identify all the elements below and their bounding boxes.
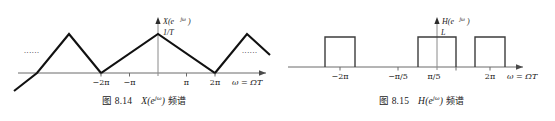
figure-8-15: −2π −π/5 π/5 2π ω = ΩT H(e jω ) L ... 图 xyxy=(288,0,555,121)
y-axis-label-superscript: jω xyxy=(180,16,187,22)
y-axis-label-group: H(e jω ) xyxy=(441,16,470,27)
tick-label-2pi: 2π xyxy=(210,78,220,87)
figure-pair-page: −2π −π π 2π ω = ΩT X(e jω ) 1/T ...... .… xyxy=(0,0,555,121)
figure-8-15-plot: −2π −π/5 π/5 2π ω = ΩT H(e jω ) L ... xyxy=(288,0,555,95)
caption-function-tail: ) xyxy=(162,96,165,106)
passband-rect-minus-2pi xyxy=(325,37,355,67)
figure-8-15-caption: 图 8.15H(ejω) 频谱 xyxy=(288,93,555,107)
caption-label: 图 8.15 xyxy=(379,96,409,106)
caption-function: H(e xyxy=(418,96,433,106)
y-axis-label-base: H(e xyxy=(441,17,454,26)
y-axis-label-tail: ) xyxy=(187,17,191,26)
tick-label-minus-pi: −π xyxy=(124,78,136,87)
ellipsis-left: ...... xyxy=(24,46,40,55)
tick-label-pi-over-5: π/5 xyxy=(427,72,440,81)
figure-8-14-plot: −2π −π π 2π ω = ΩT X(e jω ) 1/T ...... .… xyxy=(0,0,288,95)
y-axis-label-tail: ) xyxy=(466,17,470,26)
x-axis-arrowhead xyxy=(259,70,266,75)
passband-rect-2pi xyxy=(475,37,505,67)
amplitude-label: L xyxy=(440,28,446,37)
caption-function-tail: ) xyxy=(440,96,443,106)
y-axis-arrowhead xyxy=(155,17,160,24)
caption-exponent: jω xyxy=(155,94,162,101)
amplitude-label: 1/T xyxy=(163,28,174,37)
tick-label-minus-pi-over-5: −π/5 xyxy=(388,72,408,81)
tick-label-2pi: 2π xyxy=(485,72,495,81)
caption-exponent: jω xyxy=(433,94,440,101)
y-axis-label-group: X(e jω ) xyxy=(162,16,191,27)
caption-function: X(e xyxy=(141,96,155,106)
caption-subject: 频谱 xyxy=(168,96,186,106)
tick-label-minus-2pi: −2π xyxy=(92,78,109,87)
y-axis-label-base: X(e xyxy=(162,17,175,26)
x-axis-label: ω = ΩT xyxy=(507,72,538,81)
tick-label-pi: π xyxy=(184,78,189,87)
ellipsis-right: ...... xyxy=(242,46,258,55)
figure-8-14-caption: 图 8.14X(ejω) 频谱 xyxy=(0,93,288,107)
y-axis-arrowhead xyxy=(434,17,439,24)
y-axis-label-superscript: jω xyxy=(459,16,466,22)
figure-8-14: −2π −π π 2π ω = ΩT X(e jω ) 1/T ...... .… xyxy=(0,0,288,121)
tick-label-minus-2pi: −2π xyxy=(331,72,348,81)
caption-subject: 频谱 xyxy=(446,96,464,106)
caption-label: 图 8.14 xyxy=(102,96,132,106)
x-axis-arrowhead xyxy=(516,64,523,69)
x-axis-label: ω = ΩT xyxy=(232,78,263,87)
